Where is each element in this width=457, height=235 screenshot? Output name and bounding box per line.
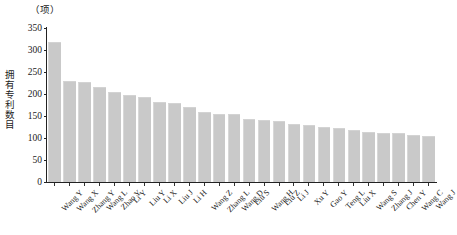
x-label-slot: Xu Y <box>301 186 316 234</box>
bar-liu-j <box>168 103 181 182</box>
bar-wang-c <box>407 135 420 182</box>
bar-slot <box>197 28 212 182</box>
bar-slot <box>137 28 152 182</box>
x-label-slot: Wang L <box>92 186 107 234</box>
bar-slot <box>152 28 167 182</box>
x-label-slot: Li J <box>287 186 302 234</box>
bar-li-j <box>288 124 301 182</box>
x-label-slot: Liu Z <box>272 186 287 234</box>
bar-slot <box>47 28 62 182</box>
bar-liu-y <box>138 97 151 182</box>
bar-zhang-j <box>377 133 390 182</box>
bar-wang-y <box>48 42 61 182</box>
y-tick-50: 50 <box>0 160 47 161</box>
y-tick-label: 50 <box>33 154 43 166</box>
bar-xu-y <box>303 125 316 182</box>
y-tick-label: 150 <box>28 110 42 122</box>
bar-wang-d <box>228 114 241 182</box>
bar-slot <box>272 28 287 182</box>
bar-wang-h <box>258 120 271 182</box>
x-axis-labels: Wang YWang XZhang YWang LZhao YLi YLiu Y… <box>47 186 436 234</box>
bar-slot <box>376 28 391 182</box>
x-label-slot: Wang Y <box>47 186 62 234</box>
y-tick-250: 250 <box>0 72 47 73</box>
y-tick-100: 100 <box>0 138 47 139</box>
y-axis-title: 拥有专利数目 <box>2 52 16 148</box>
bar-slot <box>167 28 182 182</box>
bar-slot <box>122 28 137 182</box>
bar-wang-z <box>198 112 211 182</box>
bar-zhao-y <box>108 92 121 182</box>
y-tick-0: 0 <box>0 182 47 183</box>
bar-slot <box>107 28 122 182</box>
y-tick-label: 350 <box>28 22 42 34</box>
bar-slot <box>346 28 361 182</box>
bar-li-h <box>183 107 196 182</box>
bar-liu-s <box>243 119 256 182</box>
bar-li-y <box>123 95 136 182</box>
y-tick-label: 250 <box>28 66 42 78</box>
bar-slot <box>62 28 77 182</box>
bar-slot <box>361 28 376 182</box>
x-label-slot: Zhang J <box>376 186 391 234</box>
x-label-slot: Zhang L <box>212 186 227 234</box>
y-tick-label: 300 <box>28 44 42 56</box>
x-label-slot: Zhang Y <box>77 186 92 234</box>
x-label-slot: Liu Y <box>137 186 152 234</box>
bar-li-x <box>153 102 166 182</box>
x-label-slot: Gao Y <box>316 186 331 234</box>
bar-slot <box>212 28 227 182</box>
x-label-slot: Liu X <box>346 186 361 234</box>
x-label-slot: Zhao Y <box>107 186 122 234</box>
bar-series <box>47 28 436 182</box>
bar-slot <box>77 28 92 182</box>
x-label-slot: Li X <box>152 186 167 234</box>
x-label-slot: Liu S <box>242 186 257 234</box>
x-label-slot: Chen Y <box>391 186 406 234</box>
bar-slot <box>182 28 197 182</box>
bar-wang-l <box>93 87 106 182</box>
bar-slot <box>242 28 257 182</box>
bar-slot <box>287 28 302 182</box>
y-tick-300: 300 <box>0 50 47 51</box>
x-label-slot: Wang C <box>406 186 421 234</box>
bar-teng-l <box>333 128 346 182</box>
bar-slot <box>257 28 272 182</box>
y-tick-350: 350 <box>0 28 47 29</box>
bar-zhang-l <box>213 114 226 182</box>
x-label-slot: Wang S <box>361 186 376 234</box>
bar-wang-s <box>362 132 375 182</box>
y-tick-label: 100 <box>28 132 42 144</box>
x-label-slot: Wang J <box>421 186 436 234</box>
bar-slot <box>421 28 436 182</box>
x-label-slot: Liu J <box>167 186 182 234</box>
x-label-slot: Wang Z <box>197 186 212 234</box>
bar-slot <box>331 28 346 182</box>
bar-wang-j <box>422 136 435 182</box>
y-tick-label: 0 <box>37 176 42 188</box>
y-tick-150: 150 <box>0 116 47 117</box>
x-label-slot: Li Y <box>122 186 137 234</box>
bar-chen-y <box>392 133 405 182</box>
x-label-slot: Teng L <box>331 186 346 234</box>
bar-gao-y <box>318 127 331 182</box>
bar-slot <box>227 28 242 182</box>
bar-slot <box>406 28 421 182</box>
y-tick-200: 200 <box>0 94 47 95</box>
x-label-slot: Wang X <box>62 186 77 234</box>
bar-slot <box>316 28 331 182</box>
y-tick-label: 200 <box>28 88 42 100</box>
bar-slot <box>391 28 406 182</box>
bar-liu-x <box>348 130 361 182</box>
y-axis-unit-label: （项） <box>30 2 60 16</box>
x-label-slot: Wang H <box>257 186 272 234</box>
bar-slot <box>301 28 316 182</box>
x-label-slot: Li H <box>182 186 197 234</box>
bar-liu-z <box>273 121 286 182</box>
bar-wang-x <box>63 81 76 182</box>
bar-slot <box>92 28 107 182</box>
bar-zhang-y <box>78 82 91 182</box>
x-label-slot: Wang D <box>227 186 242 234</box>
